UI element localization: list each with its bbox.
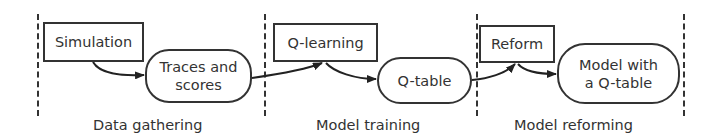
node-model-line2: a Q-table xyxy=(585,74,652,92)
edge-qlearning-to-qtable xyxy=(326,63,376,79)
node-simulation-label: Simulation xyxy=(55,33,132,51)
node-model-with-q-table: Model with a Q-table xyxy=(557,43,680,104)
edge-qtable-to-reform xyxy=(472,64,515,80)
node-model-line1: Model with xyxy=(579,56,658,74)
stage-label-model-reforming: Model reforming xyxy=(514,117,633,133)
node-reform-label: Reform xyxy=(491,35,543,53)
node-traces-and-scores: Traces and scores xyxy=(145,49,252,103)
edge-simulation-to-traces xyxy=(93,62,144,75)
node-simulation: Simulation xyxy=(43,22,144,62)
edge-reform-to-model xyxy=(518,64,556,74)
node-q-table-label: Q-table xyxy=(398,72,452,90)
node-q-learning: Q-learning xyxy=(273,23,378,62)
node-q-table: Q-table xyxy=(377,57,472,104)
node-traces-line2: scores xyxy=(175,76,222,94)
node-reform: Reform xyxy=(479,25,555,63)
node-q-learning-label: Q-learning xyxy=(287,34,363,52)
node-traces-line1: Traces and xyxy=(160,58,238,76)
stage-label-data-gathering: Data gathering xyxy=(93,117,203,133)
stage-label-model-training: Model training xyxy=(316,117,420,133)
edge-traces-to-qlearning xyxy=(252,63,322,78)
